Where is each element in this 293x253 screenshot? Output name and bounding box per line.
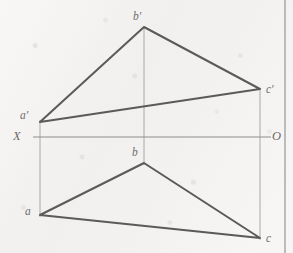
vertex-label-a-prime: a' — [20, 110, 28, 122]
frontal-projection-triangle — [40, 27, 260, 122]
vertex-label-b-prime: b' — [133, 11, 141, 23]
projection-drawing — [0, 0, 293, 253]
horizontal-projection-triangle — [40, 163, 260, 238]
ground-line-label-x: X — [13, 130, 21, 143]
vertex-label-a: a — [25, 206, 31, 218]
ground-line-label-o: O — [272, 130, 281, 143]
figure-canvas: X O a' b' c' a b c — [0, 0, 293, 253]
vertex-label-c: c — [266, 233, 271, 245]
vertex-label-b: b — [132, 147, 138, 159]
vertex-label-c-prime: c' — [266, 84, 274, 96]
